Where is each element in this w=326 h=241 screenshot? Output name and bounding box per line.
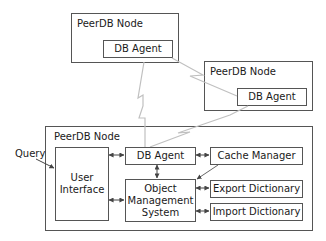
peer-node-1-db-agent: DB Agent — [103, 40, 173, 58]
peer-node-2-label: PeerDB Node — [210, 66, 276, 77]
peer-node-2-db-agent: DB Agent — [237, 88, 307, 106]
user-interface-box: User Interface — [55, 147, 109, 221]
peer-node-1-label: PeerDB Node — [77, 18, 143, 29]
export-dictionary-box: Export Dictionary — [210, 180, 303, 198]
db-agent-box: DB Agent — [125, 147, 196, 165]
cache-manager-box: Cache Manager — [210, 147, 303, 165]
object-management-system-box: Object Management System — [125, 179, 196, 222]
import-dictionary-box: Import Dictionary — [210, 203, 303, 221]
query-label: Query — [15, 148, 45, 159]
local-node-label: PeerDB Node — [54, 131, 120, 142]
